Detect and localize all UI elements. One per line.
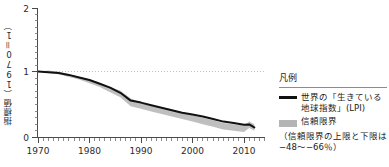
legend-item-confidence: 信頼限界: [279, 116, 387, 127]
x-tick-label-1990: 1990: [130, 146, 153, 156]
confidence-band: [38, 71, 254, 132]
x-tick-label-1980: 1980: [78, 146, 101, 156]
legend-divider: [279, 87, 387, 88]
x-tick-label-2010: 2010: [233, 146, 256, 156]
band-swatch-icon: [279, 120, 297, 127]
x-tick-label-2000: 2000: [181, 146, 204, 156]
legend-title: 凡例: [279, 73, 387, 87]
legend-item-lpi: 世界の「生きている 地球指数」(LPI): [279, 92, 387, 114]
chart-legend: 凡例 世界の「生きている 地球指数」(LPI) 信頼限界 （信頼限界の上限と下限…: [279, 73, 387, 153]
legend-note: （信頼限界の上限と下限は −48〜−66％）: [279, 131, 387, 154]
x-tick-label-1970: 1970: [27, 146, 50, 156]
y-tick-label-0: 0: [23, 133, 29, 143]
legend-label-lpi: 世界の「生きている 地球指数」(LPI): [299, 92, 387, 114]
x-ticks: [38, 138, 265, 143]
line-swatch-icon: [279, 96, 297, 99]
legend-swatch-column: [279, 116, 299, 127]
chart-plot-area: 指標値（1970＝1）: [0, 0, 272, 167]
y-tick-label-1: 1: [23, 67, 29, 77]
lpi-chart-figure: 指標値（1970＝1）: [0, 0, 389, 167]
lpi-series-line: [38, 72, 254, 128]
legend-label-confidence: 信頼限界: [299, 116, 387, 127]
y-tick-label-2: 2: [23, 4, 29, 14]
legend-swatch-column: [279, 92, 299, 99]
chart-svg: 2 1 0 1970 1980 1990 2000 2010: [0, 0, 272, 167]
